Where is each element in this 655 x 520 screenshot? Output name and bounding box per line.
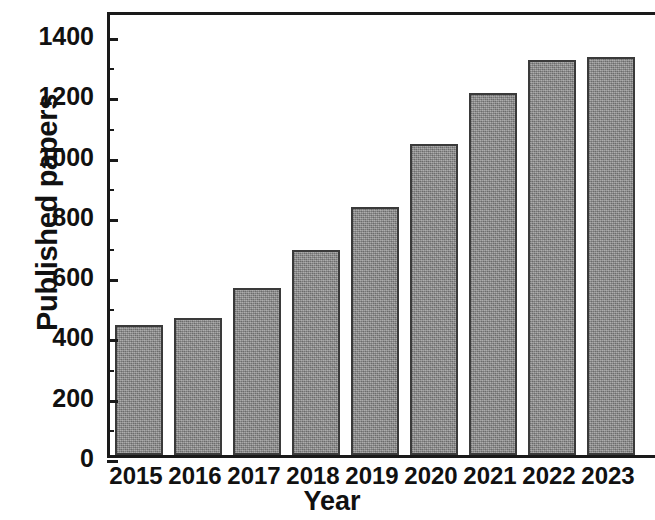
- y-axis-tick-label: 1400: [38, 22, 94, 51]
- y-axis-tick-label: 1200: [38, 82, 94, 111]
- x-axis-tick-label: 2022: [522, 462, 575, 490]
- x-axis-tick-label: 2016: [168, 462, 221, 490]
- y-axis-tick-labels: 0200400600800100012001400: [0, 0, 100, 520]
- y-axis-minor-tick: [107, 370, 114, 372]
- bar: [528, 60, 576, 455]
- y-axis-major-tick: [107, 38, 118, 41]
- plot-clip-region: [110, 15, 655, 455]
- bar: [587, 57, 635, 455]
- y-axis-minor-tick: [107, 189, 114, 191]
- y-axis-minor-tick: [107, 309, 114, 311]
- bar: [469, 93, 517, 455]
- y-axis-minor-tick: [107, 430, 114, 432]
- y-axis-major-tick: [107, 400, 118, 403]
- y-axis-tick-label: 1000: [38, 142, 94, 171]
- bar: [292, 250, 340, 455]
- y-axis-major-tick: [107, 279, 118, 282]
- gridline: [110, 39, 655, 40]
- x-axis-title: Year: [232, 486, 432, 517]
- y-axis-tick-label: 400: [52, 323, 94, 352]
- bar: [351, 207, 399, 455]
- y-axis-tick-label: 800: [52, 202, 94, 231]
- y-axis-major-tick: [107, 159, 118, 162]
- bar: [233, 288, 281, 455]
- y-axis-major-tick: [107, 339, 118, 342]
- x-axis-tick-label: 2023: [581, 462, 634, 490]
- y-axis-major-tick: [107, 219, 118, 222]
- plot-area: [107, 12, 655, 458]
- bar: [115, 325, 163, 455]
- bar: [174, 318, 222, 455]
- y-axis-major-tick: [107, 98, 118, 101]
- bar: [410, 144, 458, 455]
- y-axis-minor-tick: [107, 249, 114, 251]
- y-axis-tick-label: 600: [52, 263, 94, 292]
- x-axis-tick-label: 2021: [463, 462, 516, 490]
- y-axis-minor-tick: [107, 68, 114, 70]
- y-axis-tick-label: 200: [52, 383, 94, 412]
- x-axis-tick-label: 2015: [109, 462, 162, 490]
- y-axis-minor-tick: [107, 129, 114, 131]
